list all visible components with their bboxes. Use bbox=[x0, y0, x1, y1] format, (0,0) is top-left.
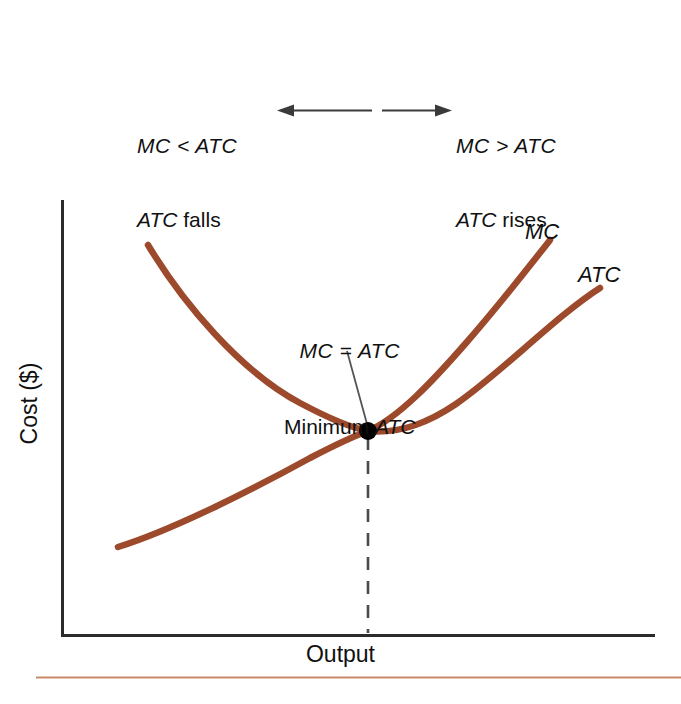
y-axis-label: Cost ($) bbox=[16, 344, 43, 464]
left-condition-line1: MC < ATC bbox=[137, 134, 237, 159]
left-condition-line2: ATC falls bbox=[137, 208, 237, 233]
minimum-point-label: MC = ATC Minimum ATC bbox=[284, 288, 415, 490]
left-condition-line2-text: falls bbox=[177, 208, 220, 231]
right-condition-line2-variable: ATC bbox=[456, 208, 496, 231]
min-point-line2: Minimum ATC bbox=[284, 414, 415, 439]
min-point-line2-text: Minimum bbox=[284, 415, 375, 438]
left-region-condition-label: MC < ATC ATC falls bbox=[137, 84, 237, 282]
right-condition-line1: MC > ATC bbox=[456, 134, 556, 159]
left-condition-line2-variable: ATC bbox=[137, 208, 177, 231]
min-point-line1: MC = ATC bbox=[284, 338, 415, 363]
right-region-condition-label: MC > ATC ATC rises bbox=[456, 84, 556, 282]
atc-curve-label: ATC bbox=[578, 262, 620, 288]
cost-curves-figure: MC < ATC ATC falls MC > ATC ATC rises MC… bbox=[0, 0, 681, 704]
min-point-line2-variable: ATC bbox=[375, 415, 415, 438]
x-axis-label: Output bbox=[0, 641, 681, 668]
left-arrow-head-icon bbox=[277, 105, 294, 117]
mc-curve-label: MC bbox=[525, 219, 559, 245]
right-arrow-head-icon bbox=[435, 105, 452, 117]
